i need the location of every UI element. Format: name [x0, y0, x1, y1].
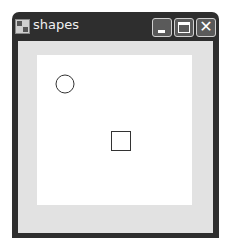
minimize-icon	[158, 30, 165, 33]
client-area	[18, 41, 213, 233]
app-window-icon[interactable]	[15, 19, 30, 34]
minimize-button[interactable]	[152, 18, 172, 37]
maximize-icon	[178, 22, 190, 33]
drawing-canvas[interactable]	[37, 55, 192, 205]
maximize-button[interactable]	[174, 18, 194, 37]
close-button[interactable]: ✕	[196, 18, 216, 37]
close-icon: ✕	[197, 17, 215, 36]
circle-shape[interactable]	[56, 75, 74, 93]
app-window: shapes ✕	[12, 12, 219, 238]
shapes-layer	[37, 55, 192, 205]
title-bar[interactable]: shapes ✕	[12, 12, 219, 41]
square-shape[interactable]	[112, 132, 131, 151]
window-title: shapes	[33, 17, 79, 32]
